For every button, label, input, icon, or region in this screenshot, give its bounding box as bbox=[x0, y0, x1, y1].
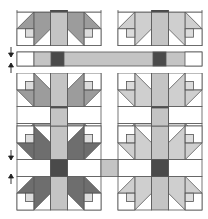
sashing-segment bbox=[34, 52, 51, 66]
top-block-row bbox=[17, 0, 202, 46]
block-center-strip bbox=[51, 126, 68, 160]
block-center-strip bbox=[152, 176, 169, 210]
small-square bbox=[25, 134, 33, 142]
block-center-band bbox=[17, 160, 51, 177]
block-center-band bbox=[67, 0, 101, 12]
small-square bbox=[185, 134, 193, 142]
block-center-square bbox=[152, 0, 169, 12]
block-center-strip bbox=[152, 73, 169, 107]
small-square bbox=[84, 81, 92, 89]
small-square bbox=[126, 81, 134, 89]
block-center-band bbox=[17, 0, 51, 12]
small-square bbox=[185, 29, 193, 37]
block-center-band bbox=[67, 107, 101, 124]
block-center-square bbox=[51, 0, 68, 12]
down-arrow-icon bbox=[9, 156, 14, 160]
vertical-sashing bbox=[51, 108, 68, 126]
block-center-band bbox=[67, 160, 101, 177]
small-square bbox=[126, 29, 134, 37]
block-center-strip bbox=[51, 12, 68, 46]
sashing-end-white bbox=[185, 52, 202, 66]
up-arrow-icon bbox=[9, 63, 14, 67]
block-center-square bbox=[152, 160, 169, 177]
block-center-band bbox=[168, 0, 202, 12]
small-square bbox=[25, 29, 33, 37]
down-arrow-icon bbox=[9, 53, 14, 57]
small-square bbox=[84, 134, 92, 142]
small-square bbox=[25, 81, 33, 89]
block-center-strip bbox=[51, 73, 68, 107]
block-center-band bbox=[17, 107, 51, 124]
block-center-band bbox=[168, 107, 202, 124]
vertical-sashing bbox=[152, 108, 169, 126]
small-square bbox=[126, 193, 134, 201]
horizontal-sashing-between-blocks bbox=[101, 160, 118, 177]
cornerstone bbox=[153, 52, 166, 66]
small-square bbox=[126, 134, 134, 142]
block-center-strip bbox=[152, 126, 169, 160]
block-center-band bbox=[118, 107, 152, 124]
small-square bbox=[84, 29, 92, 37]
block-center-band bbox=[168, 160, 202, 177]
up-arrow-icon bbox=[9, 174, 14, 178]
block-center-strip bbox=[152, 12, 169, 46]
small-square bbox=[185, 193, 193, 201]
sashing-end-white bbox=[17, 52, 34, 66]
small-square bbox=[84, 193, 92, 201]
block-center-strip bbox=[51, 176, 68, 210]
block-center-band bbox=[118, 160, 152, 177]
small-square bbox=[25, 193, 33, 201]
small-square bbox=[185, 81, 193, 89]
block-center-band bbox=[118, 0, 152, 12]
block-center-square bbox=[51, 160, 68, 177]
cornerstone bbox=[51, 52, 64, 66]
quilt-assembly-svg bbox=[0, 0, 208, 219]
quilt-diagram bbox=[0, 0, 208, 219]
